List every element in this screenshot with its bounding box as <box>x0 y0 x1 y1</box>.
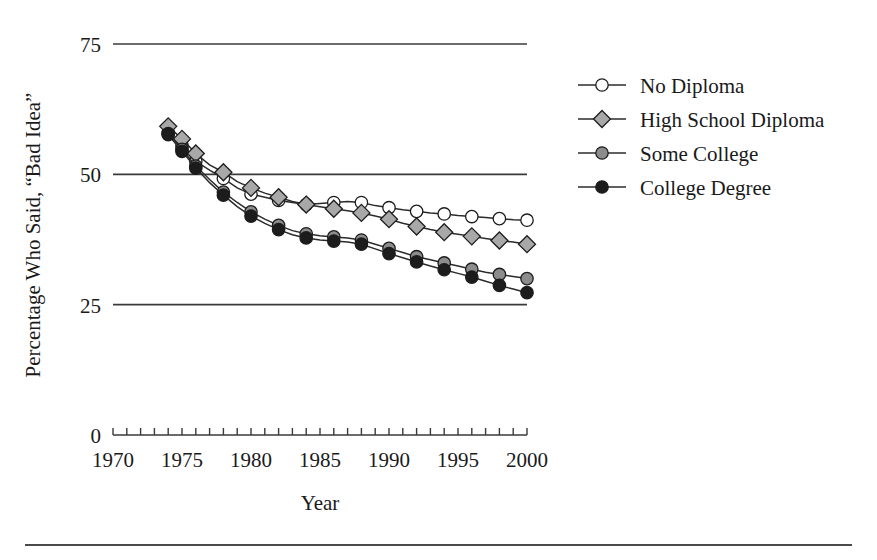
data-point-marker <box>438 208 450 220</box>
data-point-marker <box>410 256 422 268</box>
data-point-marker <box>176 145 188 157</box>
x-tick-label: 2000 <box>506 448 548 472</box>
x-axis <box>113 428 527 435</box>
x-tick-label: 1970 <box>92 448 134 472</box>
x-tick-label: 1980 <box>230 448 272 472</box>
data-point-marker <box>355 238 367 250</box>
x-axis-title: Year <box>301 491 340 515</box>
series-line <box>168 126 527 244</box>
data-point-marker <box>353 204 370 221</box>
data-point-marker <box>272 223 284 235</box>
chart-figure: 0255075 1970197519801985199019952000 No … <box>0 0 877 560</box>
data-point-marker <box>594 111 611 128</box>
x-tick-label: 1985 <box>299 448 341 472</box>
data-point-marker <box>381 211 398 228</box>
data-point-marker <box>190 162 202 174</box>
data-point-marker <box>438 264 450 276</box>
gridlines <box>113 44 527 305</box>
y-tick-label: 25 <box>80 294 101 318</box>
x-tick-label: 1975 <box>161 448 203 472</box>
y-tick-label: 50 <box>80 163 101 187</box>
legend-item-no-diploma[interactable]: No Diploma <box>578 74 745 98</box>
data-point-marker <box>466 210 478 222</box>
x-tick-labels: 1970197519801985199019952000 <box>92 448 548 472</box>
legend-item-high-school-diploma[interactable]: High School Diploma <box>578 108 825 132</box>
data-point-marker <box>300 232 312 244</box>
y-tick-label: 75 <box>80 33 101 57</box>
legend-label: College Degree <box>640 176 771 200</box>
data-point-marker <box>521 214 533 226</box>
legend-item-some-college[interactable]: Some College <box>578 142 758 166</box>
y-axis-title: Percentage Who Said, “Bad Idea” <box>21 93 45 378</box>
x-tick-label: 1990 <box>368 448 410 472</box>
data-point-marker <box>463 228 480 245</box>
data-point-marker <box>493 279 505 291</box>
data-point-marker <box>519 236 536 253</box>
legend-label: High School Diploma <box>640 108 825 132</box>
series-line <box>168 134 527 279</box>
data-point-marker <box>596 79 608 91</box>
data-point-marker <box>298 196 315 213</box>
data-series-group <box>160 118 536 299</box>
data-point-marker <box>436 224 453 241</box>
data-point-marker <box>491 232 508 249</box>
data-point-marker <box>596 181 608 193</box>
data-point-marker <box>521 286 533 298</box>
chart-legend: No DiplomaHigh School DiplomaSome Colleg… <box>578 74 825 200</box>
legend-item-college-degree[interactable]: College Degree <box>578 176 771 200</box>
data-point-marker <box>408 218 425 235</box>
data-point-marker <box>410 205 422 217</box>
data-point-marker <box>162 129 174 141</box>
y-tick-label: 0 <box>91 424 102 448</box>
legend-label: No Diploma <box>640 74 745 98</box>
data-point-marker <box>245 210 257 222</box>
data-point-marker <box>596 147 608 159</box>
line-chart: 0255075 1970197519801985199019952000 No … <box>0 0 877 560</box>
legend-label: Some College <box>640 142 758 166</box>
series-some-college <box>162 127 533 284</box>
data-point-marker <box>493 212 505 224</box>
data-point-marker <box>328 235 340 247</box>
x-tick-label: 1995 <box>437 448 479 472</box>
y-tick-labels: 0255075 <box>80 33 101 448</box>
data-point-marker <box>466 271 478 283</box>
data-point-marker <box>217 189 229 201</box>
data-point-marker <box>521 272 533 284</box>
data-point-marker <box>383 247 395 259</box>
